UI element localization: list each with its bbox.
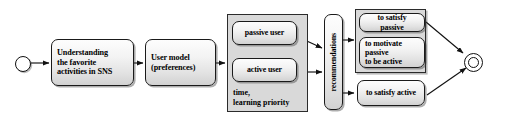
state-active-user-label: active user — [233, 65, 296, 74]
label-line-1: Understanding — [57, 48, 128, 58]
edge-satisfyactive-to-end — [427, 68, 466, 95]
start-node — [15, 56, 31, 72]
process-user-model[interactable]: User model (preferences) — [145, 39, 216, 86]
goal-satisfy-passive-label: to satisfy passive — [360, 13, 424, 32]
end-node-core — [468, 57, 479, 68]
goal-satisfy-active[interactable]: to satisfy active — [357, 80, 425, 106]
goal-satisfy-passive[interactable]: to satisfy passive — [359, 13, 425, 32]
state-passive-user[interactable]: passive user — [232, 21, 297, 45]
label-line-1: to motivate passive — [365, 39, 419, 58]
label-line-2: to be active — [365, 57, 419, 66]
goal-motivate-passive-label: to motivate passive to be active — [360, 39, 424, 67]
process-recommendations-label: recommendations — [329, 33, 338, 91]
label-line-2: the favorite — [57, 58, 128, 68]
goal-motivate-passive[interactable]: to motivate passive to be active — [359, 37, 425, 68]
note-line-1: time, — [233, 88, 307, 98]
process-understanding-activities-label: Understanding the favorite activities in… — [52, 48, 133, 77]
note-line-2: learning priority — [233, 98, 307, 108]
label-line-1: User model — [151, 53, 210, 63]
process-recommendations[interactable]: recommendations — [324, 14, 343, 110]
process-understanding-activities[interactable]: Understanding the favorite activities in… — [51, 39, 134, 86]
goal-satisfy-active-label: to satisfy active — [358, 88, 424, 97]
state-passive-user-label: passive user — [233, 28, 296, 37]
process-user-model-label: User model (preferences) — [146, 53, 215, 72]
user-group-note: time, learning priority — [233, 88, 307, 108]
label-line-2: (preferences) — [151, 63, 210, 73]
state-active-user[interactable]: active user — [232, 58, 297, 82]
label-line-3: activities in SNS — [57, 67, 128, 77]
diagram-canvas: Understanding the favorite activities in… — [0, 0, 506, 129]
edge-passivegoals-to-end — [426, 22, 463, 53]
